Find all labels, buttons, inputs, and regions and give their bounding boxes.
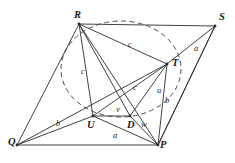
segment-group (17, 24, 215, 145)
geometry-figure: RSTUDQPcaccubvbwa (0, 0, 235, 163)
segment-Q-T (17, 64, 167, 145)
label-u-T: u (157, 86, 161, 95)
vertex-label-T: T (172, 58, 178, 69)
label-a-UP: a (113, 131, 117, 140)
vertex-label-U: U (87, 120, 95, 131)
label-a-ST: a (194, 44, 198, 53)
vertex-dot-T (166, 63, 169, 66)
label-c-UT: c (133, 83, 137, 92)
vertex-dot-P (157, 144, 160, 147)
label-b-T: b (165, 96, 169, 105)
segment-R-D (79, 24, 130, 116)
label-c-RU: c (81, 67, 85, 76)
vertex-dot-U (92, 115, 95, 118)
vertex-label-S: S (219, 12, 225, 23)
vertex-label-Q: Q (8, 137, 16, 148)
vertex-dot-D (129, 115, 132, 118)
segment-U-Q (17, 116, 93, 145)
label-b-QU: b (56, 119, 60, 128)
segment-R-Q (17, 24, 79, 145)
vertex-dot-R (78, 23, 81, 26)
vertex-dot-Q (16, 144, 19, 147)
segment-T-U (93, 64, 167, 116)
label-v-UD: v (116, 105, 120, 114)
vertex-label-P: P (160, 140, 166, 151)
segment-S-P (158, 26, 215, 145)
vertex-label-R: R (74, 10, 81, 21)
vertex-dot-S (214, 25, 217, 28)
label-c-RT: c (128, 40, 132, 49)
figure-canvas (0, 0, 235, 163)
label-w-DP: w (141, 120, 147, 129)
vertex-label-D: D (127, 120, 135, 131)
